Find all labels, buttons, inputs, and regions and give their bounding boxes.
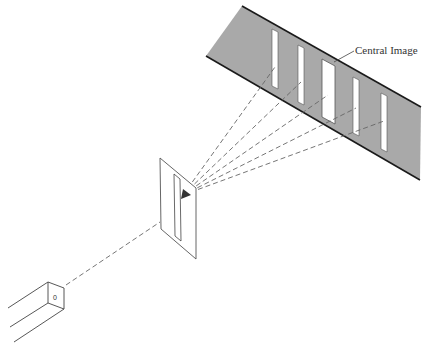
screen-image-1 (272, 29, 278, 89)
source-mark: 0 (53, 294, 57, 301)
central-image-callout: Central Image (334, 44, 418, 62)
screen-image-2 (298, 45, 304, 105)
screen (206, 6, 421, 180)
slit-card (160, 158, 196, 259)
central-image-label: Central Image (355, 44, 418, 56)
incident-ray (66, 222, 160, 285)
slit-opening (174, 174, 181, 241)
screen-image-central (322, 59, 335, 124)
diffraction-diagram: 0 Central Image (0, 0, 430, 353)
light-source: 0 (8, 282, 64, 342)
screen-image-4 (353, 77, 359, 136)
screen-image-5 (381, 93, 387, 152)
